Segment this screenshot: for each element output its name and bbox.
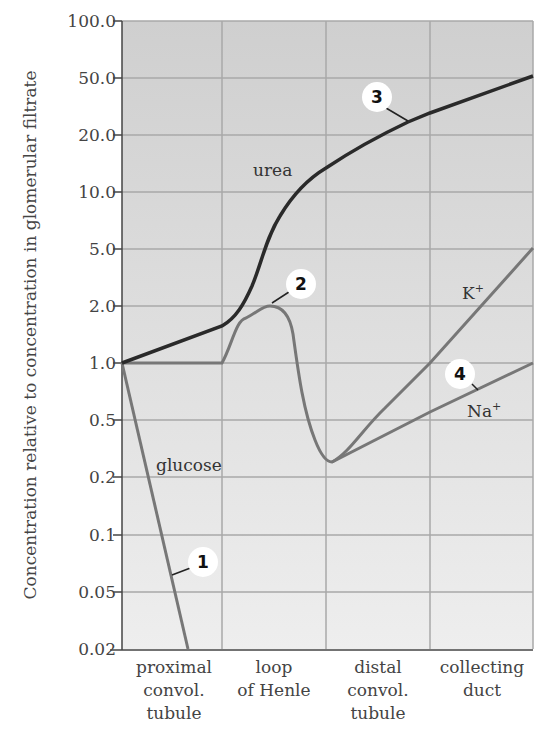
marker-2: 2 [286, 269, 316, 299]
urea-label: urea [253, 160, 292, 180]
marker-3: 3 [362, 82, 392, 112]
category-collecting-duct: collecting duct [430, 656, 534, 702]
marker-1: 1 [188, 547, 218, 577]
k-label: K+ [462, 282, 484, 303]
category-proximal-tubule: proximal convol. tubule [122, 656, 226, 725]
na-label: Na+ [467, 400, 501, 421]
category-distal-tubule: distal convol. tubule [326, 656, 430, 725]
category-loop-of-henle: loop of Henle [222, 656, 326, 702]
plot-background [122, 21, 533, 649]
marker-4: 4 [445, 359, 475, 389]
glucose-label: glucose [156, 455, 222, 475]
